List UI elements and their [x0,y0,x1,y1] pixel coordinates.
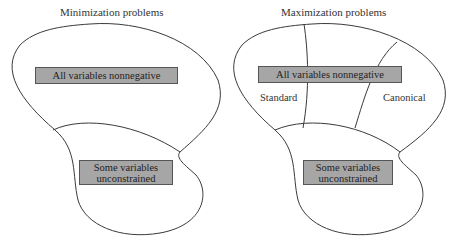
right-set-outline [234,23,446,234]
left-nonnegative-label: All variables nonnegative [53,70,161,81]
right-unconstrained-label: Some variables unconstrained [312,162,384,184]
maximization-title: Maximization problems [281,6,386,18]
canonical-boundary [355,42,397,128]
minimization-title: Minimization problems [60,6,164,18]
standard-label: Standard [260,92,297,103]
right-divider [275,123,400,152]
diagram-outlines [0,0,452,248]
left-unconstrained-box: Some variables unconstrained [79,160,173,185]
left-divider [53,123,180,152]
left-set-outline [12,23,220,234]
right-nonnegative-label: All variables nonnegative [276,69,384,80]
canonical-label: Canonical [383,92,426,103]
right-nonnegative-box: All variables nonnegative [258,66,402,83]
left-nonnegative-box: All variables nonnegative [35,67,178,84]
left-unconstrained-label: Some variables unconstrained [88,162,164,184]
right-unconstrained-box: Some variables unconstrained [303,160,393,185]
